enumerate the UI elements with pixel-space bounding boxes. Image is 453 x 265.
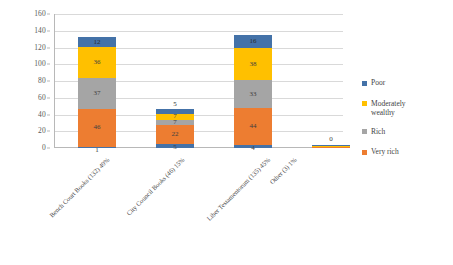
bar-group-bench-court-books[interactable]: 1 46 37 36 12 bbox=[78, 14, 116, 148]
bar-segment-moderately-wealthy[interactable] bbox=[312, 146, 350, 147]
stacked-bar-chart: 160 140 120 100 80 60 40 20 0 bbox=[0, 0, 453, 265]
legend-item-rich[interactable]: Rich bbox=[362, 127, 450, 137]
bar-segment-very-rich[interactable]: 44 bbox=[234, 108, 272, 145]
legend-swatch-poor bbox=[362, 81, 367, 86]
y-axis: 160 140 120 100 80 60 40 20 0 bbox=[16, 14, 50, 148]
bar-segment-poor[interactable]: 16 bbox=[234, 35, 272, 48]
y-tick-mark bbox=[47, 81, 50, 82]
bar-group-liber-testamentorum[interactable]: 4 44 33 38 16 bbox=[234, 14, 272, 148]
y-tick-label: 0 bbox=[42, 144, 46, 152]
y-tick-mark bbox=[47, 14, 50, 15]
bar-segment-poor-base[interactable]: 1 bbox=[78, 147, 116, 148]
bar-stack: 1 46 37 36 12 bbox=[78, 37, 116, 148]
legend-item-poor[interactable]: Poor bbox=[362, 78, 450, 88]
legend-item-moderately-wealthy[interactable]: Moderately wealthy bbox=[362, 99, 450, 118]
bar-stack: 5 22 7 7 5 bbox=[156, 109, 194, 148]
y-tick-mark bbox=[47, 47, 50, 48]
y-tick-mark bbox=[47, 64, 50, 65]
y-tick-label: 120 bbox=[34, 44, 46, 52]
bar-segment-poor[interactable]: 12 bbox=[78, 37, 116, 47]
bar-segment-label: 36 bbox=[94, 59, 101, 66]
bar-segment-poor-base[interactable]: 5 bbox=[156, 144, 194, 148]
bar-segment-label: 33 bbox=[250, 91, 257, 98]
y-tick-label: 20 bbox=[38, 127, 46, 135]
bar-segment-very-rich[interactable]: 22 bbox=[156, 125, 194, 143]
x-axis-labels: Bench Court Books (132) 49% City Council… bbox=[54, 150, 343, 220]
bar-segment-label: 0 bbox=[329, 136, 333, 143]
legend-swatch-moderately-wealthy bbox=[362, 101, 367, 106]
x-axis-label-bench-court-books: Bench Court Books (132) 49% bbox=[48, 156, 111, 219]
plot-area: 1 46 37 36 12 bbox=[54, 14, 343, 148]
bar-segment-label: 38 bbox=[250, 61, 257, 68]
y-tick-mark bbox=[47, 30, 50, 31]
legend-item-very-rich[interactable]: Very rich bbox=[362, 147, 450, 157]
bar-group-other[interactable]: 0 bbox=[312, 14, 350, 148]
x-axis-label-other: Other (3) 1% bbox=[268, 156, 298, 186]
legend-label: Poor bbox=[371, 78, 385, 88]
bar-segment-label: 22 bbox=[172, 131, 179, 138]
y-tick-label: 160 bbox=[34, 10, 46, 18]
y-tick-label: 80 bbox=[38, 77, 46, 85]
y-tick-label: 100 bbox=[34, 60, 46, 68]
legend-label: Rich bbox=[371, 127, 385, 137]
bar-stack: 0 bbox=[312, 145, 350, 148]
bar-segment-rich[interactable]: 33 bbox=[234, 80, 272, 108]
y-tick-label: 40 bbox=[38, 111, 46, 119]
bar-segment-poor[interactable]: 5 bbox=[156, 109, 194, 113]
y-tick-mark bbox=[47, 114, 50, 115]
bar-segment-very-rich[interactable] bbox=[312, 147, 350, 148]
legend: Poor Moderately wealthy Rich Very rich bbox=[362, 78, 450, 168]
bar-segment-label: 44 bbox=[250, 123, 257, 130]
bar-segment-label: 16 bbox=[250, 38, 257, 45]
bar-stack: 4 44 33 38 16 bbox=[234, 35, 272, 148]
bar-segment-very-rich[interactable]: 46 bbox=[78, 109, 116, 148]
bar-segment-poor-base[interactable]: 4 bbox=[234, 145, 272, 148]
y-tick-mark bbox=[47, 131, 50, 132]
bars-container: 1 46 37 36 12 bbox=[54, 14, 343, 148]
y-tick-mark bbox=[47, 97, 50, 98]
bar-segment-label: 12 bbox=[94, 39, 101, 46]
legend-label: Very rich bbox=[371, 147, 399, 157]
bar-segment-moderately-wealthy[interactable]: 36 bbox=[78, 47, 116, 77]
bar-segment-rich[interactable]: 37 bbox=[78, 78, 116, 109]
legend-label: Moderately wealthy bbox=[371, 99, 406, 118]
bar-segment-rich[interactable]: 7 bbox=[156, 120, 194, 126]
x-axis-label-city-council-books: City Council Books (46) 15% bbox=[125, 156, 186, 217]
bar-segment-moderately-wealthy[interactable]: 38 bbox=[234, 48, 272, 80]
x-axis-label-liber-testamentorum: Liber Testamentorum (135) 45% bbox=[205, 156, 272, 223]
bar-segment-label: 37 bbox=[94, 90, 101, 97]
bar-segment-poor[interactable]: 0 bbox=[312, 145, 350, 146]
y-tick-label: 60 bbox=[38, 94, 46, 102]
y-tick-mark bbox=[47, 148, 50, 149]
bar-segment-moderately-wealthy[interactable]: 7 bbox=[156, 114, 194, 120]
bar-segment-label: 5 bbox=[173, 101, 177, 108]
bar-segment-rich[interactable] bbox=[312, 146, 350, 147]
legend-swatch-very-rich bbox=[362, 150, 367, 155]
bar-segment-label: 46 bbox=[94, 124, 101, 131]
legend-swatch-rich bbox=[362, 129, 367, 134]
bar-group-city-council-books[interactable]: 5 22 7 7 5 bbox=[156, 14, 194, 148]
y-tick-label: 140 bbox=[34, 27, 46, 35]
bar-segment-label: 7 bbox=[173, 113, 177, 120]
